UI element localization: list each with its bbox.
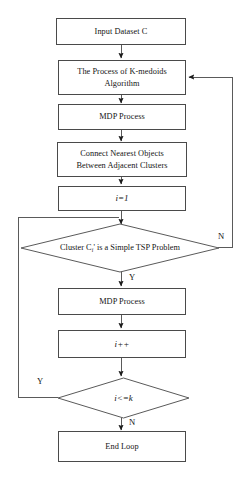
node-init-index: i=1 bbox=[58, 186, 186, 211]
node-connect-line1: Connect Nearest Objects bbox=[80, 149, 164, 158]
node-kmedoids-process: The Process of K-medoids Algorithm bbox=[58, 60, 186, 95]
node-input-dataset: Input Dataset C bbox=[56, 18, 186, 45]
node-end-loop: End Loop bbox=[58, 431, 186, 462]
node-init-index-label: i=1 bbox=[115, 193, 128, 204]
node-mdp-process-1: MDP Process bbox=[58, 104, 186, 130]
node-increment-index-label: i++ bbox=[115, 339, 130, 350]
node-decision-tsp bbox=[20, 223, 220, 273]
node-increment-index: i++ bbox=[58, 330, 186, 358]
edge-label-tsp-no: N bbox=[218, 231, 224, 241]
flowchart-canvas: Input Dataset C The Process of K-medoids… bbox=[0, 0, 243, 477]
edge-label-loop-yes: Y bbox=[37, 376, 43, 386]
node-connect-line2: Between Adjacent Clusters bbox=[76, 161, 167, 170]
node-decision-loop bbox=[57, 377, 190, 419]
node-kmedoids-line2: Algorithm bbox=[104, 79, 139, 88]
node-kmedoids-process-label: The Process of K-medoids Algorithm bbox=[77, 66, 166, 90]
edge-label-tsp-yes: Y bbox=[129, 272, 135, 282]
node-mdp-process-2-label: MDP Process bbox=[99, 297, 145, 307]
node-input-dataset-label: Input Dataset C bbox=[95, 27, 148, 37]
node-mdp-process-1-label: MDP Process bbox=[99, 112, 145, 122]
edge-label-loop-no: N bbox=[129, 417, 135, 427]
node-connect-nearest-objects: Connect Nearest Objects Between Adjacent… bbox=[57, 142, 187, 177]
node-end-loop-label: End Loop bbox=[105, 442, 138, 452]
node-mdp-process-2: MDP Process bbox=[58, 288, 186, 315]
node-connect-nearest-objects-label: Connect Nearest Objects Between Adjacent… bbox=[76, 148, 167, 172]
node-kmedoids-line1: The Process of K-medoids bbox=[77, 67, 166, 76]
